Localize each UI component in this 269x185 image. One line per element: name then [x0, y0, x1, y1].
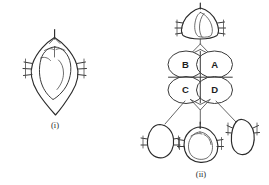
- panel-i-inner-body: [39, 47, 70, 100]
- structure-top-inner: [195, 13, 213, 38]
- panel-i-inner-arc-left: [41, 57, 51, 60]
- structure-bottom-left: [141, 125, 180, 158]
- structure-bottom-left-outline: [147, 125, 173, 158]
- connector-to-bottom-left: [165, 101, 185, 124]
- structure-bottom-center-inner-fold-right: [204, 135, 211, 145]
- structure-bottom-right-outline: [231, 119, 254, 154]
- structure-top-right-ticks: [218, 20, 226, 36]
- structure-top-left-ticks: [175, 20, 183, 36]
- quadrant-cell-d-label: D: [211, 84, 218, 95]
- structure-bottom-center: [178, 122, 224, 162]
- structure-bottom-right-left-ticks: [226, 123, 233, 135]
- panel-ii: B A C D: [141, 3, 260, 179]
- structure-bottom-left-left-ticks: [141, 136, 148, 148]
- quadrant-cell-b-label: B: [182, 59, 189, 70]
- structure-bottom-right-right-ticks: [253, 123, 260, 135]
- panel-i-caption: (i): [51, 120, 59, 130]
- diagram-canvas: (i): [0, 0, 269, 185]
- structure-top-inner-fold: [200, 14, 205, 38]
- quadrant-cell-a-label: A: [211, 59, 218, 70]
- connector-to-bottom-right: [216, 101, 236, 122]
- quadrant-cell-c-label: C: [182, 84, 189, 95]
- panel-i-inner-arc-right: [57, 60, 64, 90]
- structure-bottom-right: [226, 119, 260, 154]
- quadrant-group: B A C D: [168, 51, 233, 104]
- panel-ii-caption: (ii): [196, 169, 207, 179]
- structure-bottom-center-inner: [188, 132, 212, 159]
- figure-root: (i): [0, 0, 269, 185]
- structure-top: [175, 3, 226, 39]
- panel-i: (i): [23, 30, 87, 131]
